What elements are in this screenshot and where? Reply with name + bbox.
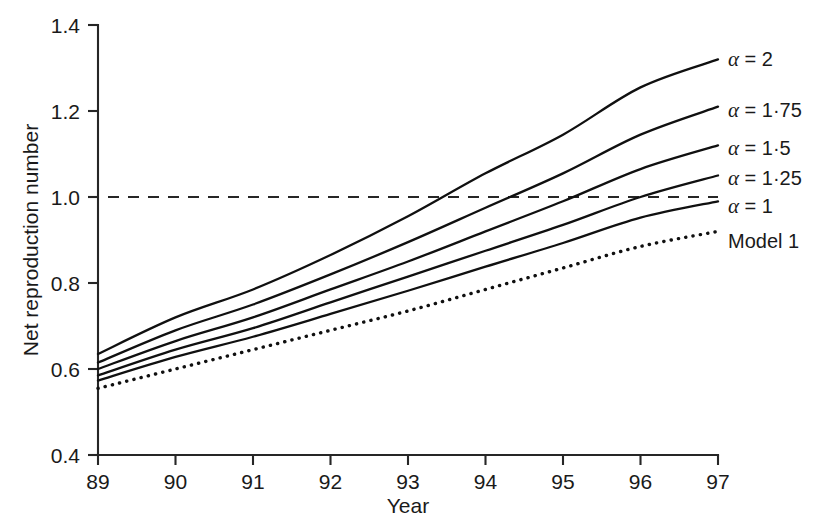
x-axis-tick-labels: 89 90 91 92 93 94 95 96 97 [86, 470, 729, 493]
figure-net-reproduction-number: 1.4 1.2 1.0 0.8 0.6 0.4 89 90 91 92 93 [0, 0, 816, 518]
x-tick-label-95: 95 [551, 470, 574, 493]
line-chart: 1.4 1.2 1.0 0.8 0.6 0.4 89 90 91 92 93 [0, 0, 816, 518]
x-tick-label-91: 91 [241, 470, 264, 493]
y-tick-label-1-0: 1.0 [51, 186, 80, 209]
series-label-alpha-1-rest: = 1 [739, 195, 773, 217]
y-axis-title: Net reproduction number [19, 124, 42, 356]
series-label-alpha-1-75-rest: = 1·75 [739, 99, 802, 121]
y-tick-label-0-8: 0.8 [51, 272, 80, 295]
series-line-alpha-1-5 [98, 145, 718, 369]
series-line-alpha-1 [98, 201, 718, 380]
y-tick-label-1-2: 1.2 [51, 100, 80, 123]
series-label-alpha-2-rest: = 2 [739, 48, 773, 70]
series-line-model-1 [98, 231, 718, 388]
x-tick-label-92: 92 [319, 470, 342, 493]
data-series-group [98, 59, 718, 388]
series-label-alpha-1-5: α = 1·5 [728, 136, 791, 160]
series-line-alpha-1-75 [98, 107, 718, 363]
x-axis-title: Year [387, 494, 429, 517]
x-axis-ticks [98, 455, 718, 465]
x-tick-label-97: 97 [706, 470, 729, 493]
series-label-alpha-1-75: α = 1·75 [728, 98, 802, 122]
series-label-alpha-1: α = 1 [728, 194, 773, 218]
y-tick-label-0-6: 0.6 [51, 358, 80, 381]
series-line-alpha-2 [98, 59, 718, 354]
series-label-alpha-2: α = 2 [728, 47, 773, 71]
x-tick-label-90: 90 [164, 470, 187, 493]
series-line-alpha-1-25 [98, 176, 718, 376]
x-tick-label-93: 93 [396, 470, 419, 493]
series-label-alpha-1-25: α = 1·25 [728, 166, 802, 190]
series-label-model-1: Model 1 [728, 230, 799, 252]
x-tick-label-96: 96 [629, 470, 652, 493]
series-label-alpha-1-25-rest: = 1·25 [739, 167, 802, 189]
y-axis-ticks [88, 25, 98, 455]
y-tick-label-1-4: 1.4 [51, 14, 81, 37]
x-tick-label-89: 89 [86, 470, 109, 493]
x-tick-label-94: 94 [474, 470, 498, 493]
series-label-alpha-1-5-rest: = 1·5 [739, 137, 791, 159]
y-tick-label-0-4: 0.4 [51, 444, 81, 467]
y-axis-tick-labels: 1.4 1.2 1.0 0.8 0.6 0.4 [51, 14, 81, 467]
series-labels-group: α = 2 α = 1·75 α = 1·5 α = 1·25 α = 1 Mo… [728, 47, 802, 252]
